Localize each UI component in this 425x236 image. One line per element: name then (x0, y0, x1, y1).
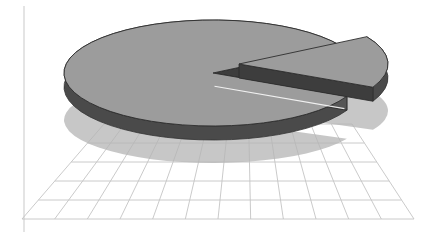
chart-canvas (0, 0, 425, 236)
exploded-pie-chart-graphic (0, 0, 425, 236)
